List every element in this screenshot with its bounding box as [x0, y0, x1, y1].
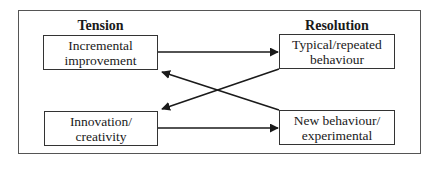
box-line: Innovation/: [70, 114, 132, 129]
box-innovation-creativity: Innovation/ creativity: [44, 111, 158, 146]
box-typical-repeated-behaviour: Typical/repeated behaviour: [279, 34, 395, 69]
box-incremental-improvement: Incremental improvement: [43, 35, 158, 70]
box-new-behaviour-experimental: New behaviour/ experimental: [279, 110, 395, 145]
box-line: experimental: [302, 128, 372, 143]
box-line: Typical/repeated: [292, 37, 382, 52]
box-line: creativity: [76, 129, 127, 144]
box-line: New behaviour/: [294, 113, 381, 128]
arrow-typical-to-innovation: [162, 69, 279, 109]
box-line: behaviour: [310, 52, 364, 67]
box-line: Incremental: [68, 38, 132, 53]
box-line: improvement: [65, 53, 137, 68]
arrow-new-behaviour-to-incremental: [162, 72, 279, 110]
